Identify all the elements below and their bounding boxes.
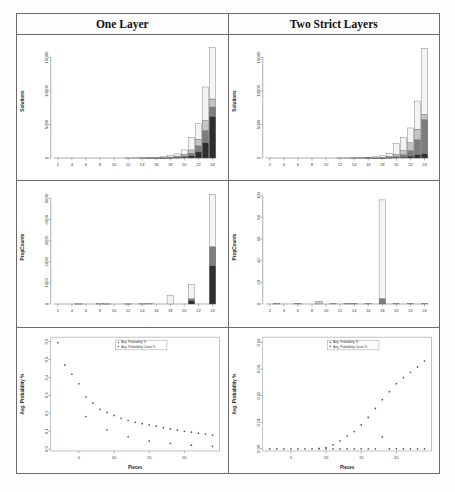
data-point (353, 448, 355, 450)
data-point (169, 442, 171, 444)
bar-segment (407, 304, 413, 305)
x-tick-label: 14 (351, 308, 356, 313)
bar-segment (209, 247, 215, 266)
cell-solutions-one-layer: 05000100001500024681012141618202224Solut… (17, 35, 229, 180)
x-tick-label: 6 (296, 162, 299, 167)
data-point (395, 448, 397, 450)
plot-solutions-two-strict-layers: 05000100001500024681012141618202224Solut… (229, 35, 440, 180)
x-tick-label: 4 (71, 162, 74, 167)
x-tick-label: 16 (365, 162, 370, 167)
x-tick-label: 16 (154, 162, 159, 167)
x-tick-label: 24 (422, 162, 427, 167)
x-tick-label: 14 (351, 162, 356, 167)
bar-segment (294, 304, 300, 305)
data-point (409, 448, 411, 450)
x-tick-label: 10 (323, 162, 328, 167)
y-tick-label: 2000 (44, 257, 49, 267)
bar-segment (414, 155, 420, 158)
data-point (78, 383, 80, 385)
figure-header-row: One Layer Two Strict Layers (17, 14, 439, 35)
data-point (155, 425, 157, 427)
row-solutions: 05000100001500024681012141618202224Solut… (17, 35, 439, 181)
x-tick-label: 2 (57, 308, 60, 313)
cell-solutions-two-strict-layers: 05000100001500024681012141618202224Solut… (229, 35, 440, 180)
x-tick-label: 2 (57, 162, 60, 167)
bar-segment (400, 155, 406, 157)
data-point (275, 448, 277, 450)
y-tick-label: 4000 (44, 215, 49, 225)
y-tick-label: 20 (255, 280, 260, 285)
x-tick-label: 10 (323, 308, 328, 313)
bar-segment (188, 299, 194, 301)
x-tick-label: 5 (78, 454, 81, 459)
x-axis-label: Pieces (128, 465, 143, 470)
bar-segment (209, 195, 215, 247)
data-point (106, 429, 108, 431)
bar-segment (407, 156, 413, 158)
x-tick-label: 22 (408, 308, 413, 313)
data-point (141, 423, 143, 425)
bar-segment (188, 285, 194, 299)
bar-segment (407, 143, 413, 151)
bar-segment (202, 87, 208, 120)
legend-marker (118, 341, 119, 343)
y-tick-label: 10000 (255, 84, 260, 96)
x-tick-label: 16 (154, 308, 159, 313)
bar-segment (188, 301, 194, 304)
y-axis-label: PropCounts (20, 234, 25, 261)
data-point (127, 435, 129, 437)
cell-propcounts-two-strict-layers: 02040608010024681012141618202224PropCoun… (229, 181, 440, 326)
x-tick-label: 20 (394, 454, 399, 459)
x-tick-label: 18 (380, 162, 385, 167)
data-point (57, 341, 59, 343)
y-tick-label: 0 (255, 156, 260, 159)
y-tick-label: 0.3 (44, 391, 49, 398)
y-tick-label: 0.6 (44, 338, 49, 345)
chart-solutions-one-layer: 05000100001500024681012141618202224Solut… (17, 35, 228, 180)
y-tick-label: 0.04 (255, 337, 260, 346)
data-point (71, 373, 73, 375)
bar-segment (195, 152, 201, 158)
data-point (113, 414, 115, 416)
bar-segment (393, 154, 399, 156)
bar-segment (421, 304, 427, 305)
y-tick-label: 0.0 (44, 445, 49, 452)
bar-segment (379, 299, 385, 304)
x-tick-label: 22 (408, 162, 413, 167)
x-tick-label: 2 (268, 308, 271, 313)
data-point (423, 360, 425, 362)
y-tick-label: 5000 (44, 119, 49, 129)
data-point (360, 424, 362, 426)
x-tick-label: 22 (196, 308, 201, 313)
data-point (92, 402, 94, 404)
bar-segment (329, 304, 335, 305)
data-point (177, 429, 179, 431)
bar-segment (188, 156, 194, 158)
chart-probability-one-layer: 0.00.10.20.30.40.50.65101520Avg. Probabi… (17, 328, 228, 473)
bar-segment (195, 139, 201, 146)
x-tick-label: 18 (380, 308, 385, 313)
bar-segment (209, 47, 215, 99)
bar-segment (195, 146, 201, 152)
plot-solutions-one-layer: 05000100001500024681012141618202224Solut… (17, 35, 228, 180)
x-tick-label: 15 (147, 454, 152, 459)
x-tick-label: 8 (310, 308, 313, 313)
x-tick-label: 4 (282, 308, 285, 313)
data-point (184, 430, 186, 432)
bar-segment (365, 304, 371, 305)
data-point (212, 445, 214, 447)
x-tick-label: 20 (182, 162, 187, 167)
bar-segment (350, 304, 356, 305)
chart-probability-two-strict-layers: 0.000.010.020.030.045101520Avg. Probabil… (229, 328, 440, 473)
x-tick-label: 4 (71, 308, 74, 313)
bar-segment (421, 154, 427, 158)
data-point (346, 448, 348, 450)
y-tick-label: 0.2 (44, 409, 49, 416)
y-tick-label: 0.02 (255, 391, 260, 400)
bar-segment (343, 304, 349, 305)
y-tick-label: 0.5 (44, 356, 49, 363)
data-point (64, 364, 66, 366)
data-point (148, 440, 150, 442)
bar-segment (407, 128, 413, 143)
data-point (339, 440, 341, 442)
